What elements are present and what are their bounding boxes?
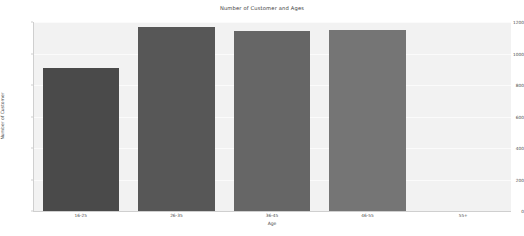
y-tick-mark bbox=[31, 22, 33, 23]
bar bbox=[329, 30, 405, 211]
y-tick-label: 1000 bbox=[498, 51, 524, 56]
y-tick-mark bbox=[31, 85, 33, 86]
x-tick-label: 26-35 bbox=[170, 213, 183, 218]
bar bbox=[234, 31, 310, 211]
bar-chart-figure: Number of Customer and Ages 020040060080… bbox=[0, 0, 524, 236]
x-axis-title: Age bbox=[33, 221, 511, 226]
chart-title: Number of Customer and Ages bbox=[0, 5, 524, 11]
x-tick-label: 46-55 bbox=[361, 213, 374, 218]
y-tick-mark bbox=[31, 53, 33, 54]
x-tick-label: 16-25 bbox=[75, 213, 88, 218]
y-tick-mark bbox=[31, 179, 33, 180]
y-tick-mark bbox=[31, 148, 33, 149]
y-tick-label: 600 bbox=[498, 114, 524, 119]
y-axis-title: Number of Customer bbox=[0, 92, 5, 139]
x-tick-label: 36-45 bbox=[266, 213, 279, 218]
y-axis-line bbox=[33, 22, 34, 211]
x-tick-label: 55+ bbox=[459, 213, 468, 218]
y-tick-mark bbox=[31, 116, 33, 117]
y-tick-label: 1200 bbox=[498, 20, 524, 25]
bar bbox=[43, 68, 119, 211]
y-tick-label: 0 bbox=[498, 209, 524, 214]
x-axis-line bbox=[33, 211, 511, 212]
y-tick-label: 200 bbox=[498, 177, 524, 182]
bar bbox=[138, 27, 214, 211]
y-tick-mark bbox=[31, 211, 33, 212]
gridline bbox=[33, 22, 511, 23]
plot-area bbox=[33, 22, 511, 211]
y-tick-label: 800 bbox=[498, 83, 524, 88]
y-tick-label: 400 bbox=[498, 146, 524, 151]
